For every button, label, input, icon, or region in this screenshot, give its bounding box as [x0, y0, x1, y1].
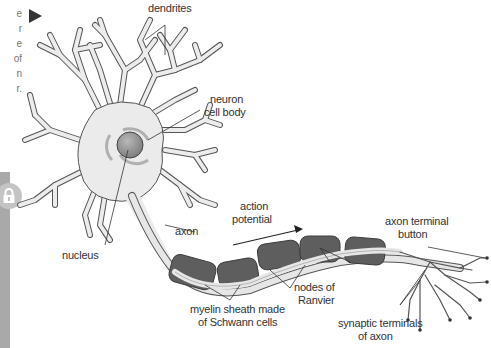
label-myelin-sheath-line2: of Schwann cells [198, 316, 277, 329]
label-dendrites: dendrites [148, 2, 191, 15]
label-neuron-cell-body-line1: neuron [210, 93, 243, 106]
label-synaptic-terminals-line1: synaptic terminals [338, 317, 422, 330]
label-neuron-cell-body-line2: cell body [204, 106, 246, 119]
label-axon-terminal-button-line2: button [398, 228, 427, 241]
neuron-diagram: e r e of n r. [0, 0, 491, 348]
label-synaptic-terminals-line2: of axon [358, 330, 393, 343]
label-action-potential-line1: action [240, 200, 268, 213]
label-myelin-sheath-line1: myelin sheath made [190, 303, 285, 316]
label-axon: axon [175, 225, 198, 238]
label-nodes-of-ranvier-line2: Ranvier [298, 294, 335, 307]
label-action-potential-line2: potential [232, 213, 272, 226]
label-nucleus: nucleus [62, 249, 99, 262]
label-axon-terminal-button-line1: axon terminal [385, 215, 448, 228]
label-nodes-of-ranvier-line1: nodes of [294, 281, 335, 294]
neuron-illustration [0, 0, 491, 348]
